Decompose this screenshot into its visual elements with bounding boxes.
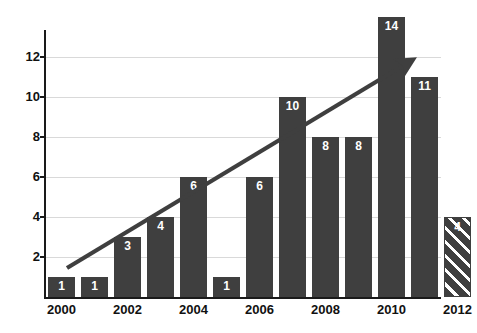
bar[interactable]: 14: [378, 17, 405, 297]
bar[interactable]: 3: [114, 237, 141, 297]
bar[interactable]: 6: [246, 177, 273, 297]
plot-area: 1134616108814114: [45, 30, 441, 297]
bar-value-label: 3: [114, 240, 141, 252]
x-axis-tick-label: 2012: [432, 303, 477, 316]
bar-value-label: 6: [246, 180, 273, 192]
x-axis-tick-label: 2000: [36, 303, 88, 316]
y-axis-tick-label: 2: [6, 250, 40, 263]
bar[interactable]: 8: [345, 137, 372, 297]
chart-title: [0, 0, 441, 6]
bar-value-label: 1: [213, 280, 240, 292]
bar-value-label: 14: [378, 20, 405, 32]
x-axis-tick-label: 2010: [366, 303, 418, 316]
x-axis-tick-label: 2008: [300, 303, 352, 316]
bar-value-label: 11: [411, 80, 438, 92]
bar-value-label: 10: [279, 100, 306, 112]
bar-projected[interactable]: 4: [444, 217, 471, 297]
bar[interactable]: 1: [81, 277, 108, 297]
bar[interactable]: 11: [411, 77, 438, 297]
bar-value-label: 8: [345, 140, 372, 152]
bar[interactable]: 10: [279, 97, 306, 297]
bar-value-label: 1: [81, 280, 108, 292]
x-axis-line: [44, 297, 441, 299]
bar[interactable]: 1: [213, 277, 240, 297]
bar-value-label: 1: [48, 280, 75, 292]
y-axis-line: [44, 30, 46, 298]
bar[interactable]: 6: [180, 177, 207, 297]
bar-value-label: 4: [147, 220, 174, 232]
bar-value-label: 6: [180, 180, 207, 192]
y-axis-tick-label: 8: [6, 130, 40, 143]
y-axis-tick-label: 10: [6, 90, 40, 103]
x-axis-tick-label: 2002: [102, 303, 154, 316]
bar[interactable]: 4: [147, 217, 174, 297]
x-axis-tick-label: 2004: [168, 303, 220, 316]
y-axis-ticks: 12108642: [0, 0, 40, 333]
bar-value-label: 4: [445, 221, 470, 233]
bar-value-label: 8: [312, 140, 339, 152]
y-axis-tick-label: 12: [6, 50, 40, 63]
y-axis-tick-label: 4: [6, 210, 40, 223]
bar[interactable]: 1: [48, 277, 75, 297]
x-axis-tick-label: 2006: [234, 303, 286, 316]
y-axis-tick-label: 6: [6, 170, 40, 183]
bar[interactable]: 8: [312, 137, 339, 297]
